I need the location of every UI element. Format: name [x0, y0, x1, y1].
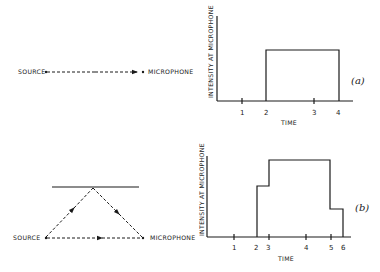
diagram-a: SOURCE MICROPHONE [18, 68, 193, 75]
panel-label-a: (a) [351, 75, 365, 86]
chart-a: INTENSITY AT MICROPHONE 1 2 3 4 TIME (a) [207, 5, 365, 126]
tick-label-b-2: 2 [254, 244, 258, 252]
diagram-b: SOURCE MICROPHONE [13, 187, 195, 241]
tick-label-a-2: 2 [264, 109, 268, 117]
microphone-dot-icon [142, 237, 144, 239]
microphone-label-a: MICROPHONE [148, 68, 193, 75]
panel-label-b: (b) [355, 202, 369, 213]
figure-canvas: SOURCE MICROPHONE INTENSITY AT MICROPHON… [0, 0, 380, 272]
x-axis-label-a: TIME [280, 119, 297, 126]
tick-label-b-4: 4 [304, 244, 309, 252]
microphone-dot-icon [142, 71, 144, 73]
tick-label-b-5: 5 [329, 244, 333, 252]
x-axis-label-b: TIME [277, 255, 294, 262]
chart-b: INTENSITY AT MICROPHONE 1 2 3 4 5 6 TIME… [198, 143, 369, 262]
y-axis-label-b: INTENSITY AT MICROPHONE [198, 143, 205, 236]
y-axis-label-a: INTENSITY AT MICROPHONE [207, 5, 214, 98]
tick-label-a-3: 3 [312, 109, 316, 117]
reflected-path-down [119, 214, 142, 237]
source-dot-icon [45, 71, 47, 73]
tick-label-b-6: 6 [341, 244, 346, 252]
tick-label-a-1: 1 [240, 109, 244, 117]
reflected-path-up [74, 188, 93, 208]
reflected-path-up-arrow-icon [46, 208, 74, 237]
tick-label-b-3: 3 [266, 244, 270, 252]
source-label-b: SOURCE [13, 234, 40, 241]
microphone-label-b: MICROPHONE [150, 234, 195, 241]
source-label-a: SOURCE [18, 68, 45, 75]
intensity-curve-b [257, 160, 343, 237]
intensity-curve-a [266, 50, 339, 101]
tick-label-a-4: 4 [336, 109, 341, 117]
reflected-path-down-arrow-icon [93, 188, 119, 214]
source-dot-icon [45, 237, 47, 239]
tick-label-b-1: 1 [232, 244, 236, 252]
